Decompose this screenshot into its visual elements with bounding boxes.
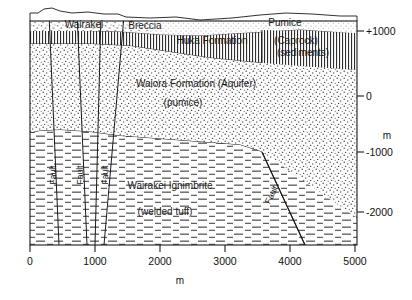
y-tick-label-0: 0 (366, 90, 372, 102)
cross-section-figure: Wairakei Breccia Pumice Huka Formation (… (0, 0, 412, 300)
fault-label-3: Fault (100, 165, 110, 185)
x-axis: 0 1000 2000 3000 4000 5000 m (27, 245, 367, 286)
x-tick-label-5000: 5000 (343, 255, 367, 267)
x-tick-label-1000: 1000 (83, 255, 107, 267)
y-tick-label-m1000: -1000 (366, 146, 393, 158)
label-sediments: (sediments) (277, 47, 329, 58)
y-axis: +1000 0 -1000 -2000 m (357, 25, 396, 218)
label-breccia: Breccia (128, 20, 162, 31)
x-tick-label-3000: 3000 (213, 255, 237, 267)
x-tick-label-4000: 4000 (278, 255, 302, 267)
fault-label-1: Fault (48, 165, 58, 185)
y-axis-unit: m (383, 130, 391, 141)
label-waiora-pumice: (pumice) (164, 97, 203, 108)
x-tick-label-2000: 2000 (148, 255, 172, 267)
y-tick-label-m2000: -2000 (366, 206, 393, 218)
label-pumice: Pumice (268, 17, 302, 28)
label-caprock: (Caprock) (274, 35, 318, 46)
cross-section-svg: Wairakei Breccia Pumice Huka Formation (… (0, 0, 412, 300)
x-axis-unit: m (176, 275, 184, 286)
y-tick-label-1000: +1000 (366, 25, 396, 37)
x-tick-label-0: 0 (27, 255, 33, 267)
label-waiora-formation: Waiora Formation (Aquifer) (136, 78, 256, 89)
label-huka-formation: Huka Formation (176, 35, 247, 46)
label-wairakei: Wairakei (65, 19, 104, 30)
label-wairakei-ignimbrite: Wairakei Ignimbrite (127, 180, 213, 191)
fault-label-2: Fault (75, 165, 85, 185)
label-welded-tuff: (welded tuff) (138, 206, 193, 217)
